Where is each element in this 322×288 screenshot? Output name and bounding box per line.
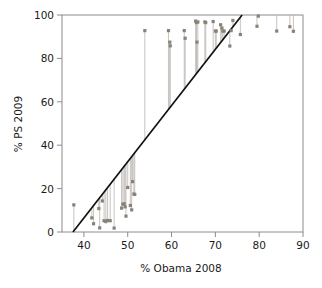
- data-point: [133, 193, 136, 196]
- data-point: [129, 204, 132, 207]
- data-point: [220, 26, 223, 29]
- data-point: [292, 30, 295, 33]
- data-point: [168, 41, 171, 44]
- fit-line-segment: [73, 15, 242, 232]
- data-point: [257, 14, 260, 17]
- data-point: [169, 44, 172, 47]
- data-point: [239, 33, 242, 36]
- y-tick-label-3: 60: [41, 96, 54, 108]
- x-tick-label-2: 60: [165, 239, 178, 251]
- data-point: [72, 203, 75, 206]
- data-point: [92, 222, 95, 225]
- regression-line: [73, 15, 242, 232]
- data-point: [204, 21, 207, 24]
- data-point: [230, 29, 233, 32]
- data-point: [195, 41, 198, 44]
- data-point: [97, 207, 100, 210]
- data-point: [109, 219, 112, 222]
- data-point: [113, 226, 116, 229]
- x-tick-label-5: 90: [296, 239, 309, 251]
- data-point: [101, 199, 104, 202]
- data-point: [124, 215, 127, 218]
- data-point: [183, 29, 186, 32]
- y-axis-title: % PS 2009: [12, 96, 24, 152]
- data-point: [223, 29, 226, 32]
- data-point: [219, 23, 222, 26]
- data-point: [231, 19, 234, 22]
- data-point: [167, 29, 170, 32]
- y-tick-label-4: 80: [41, 52, 54, 64]
- data-point: [130, 208, 133, 211]
- x-axis-title: % Obama 2008: [140, 262, 221, 274]
- plot-canvas: 405060708090 020406080100 % Obama 2008 %…: [0, 0, 322, 288]
- x-tick-label-4: 80: [252, 239, 265, 251]
- scatter-chart: 405060708090 020406080100 % Obama 2008 %…: [0, 0, 322, 288]
- data-point: [228, 44, 231, 47]
- data-point: [215, 29, 218, 32]
- x-tick-label-1: 50: [121, 239, 134, 251]
- data-point: [126, 186, 129, 189]
- y-tick-label-0: 0: [47, 226, 54, 238]
- data-point: [123, 202, 126, 205]
- data-point: [288, 25, 291, 28]
- x-tick-label-3: 70: [209, 239, 222, 251]
- y-tick-label-1: 20: [41, 183, 54, 195]
- data-point: [90, 216, 93, 219]
- data-point: [255, 25, 258, 28]
- data-point: [98, 226, 101, 229]
- data-point: [123, 205, 126, 208]
- y-axis-ticks: 020406080100: [34, 9, 62, 238]
- x-axis-ticks: 405060708090: [77, 232, 309, 251]
- data-point: [212, 20, 215, 23]
- residual-stems: [74, 15, 294, 231]
- y-tick-label-2: 40: [41, 139, 54, 151]
- data-point: [275, 29, 278, 32]
- data-point: [131, 180, 134, 183]
- data-point: [196, 20, 199, 23]
- x-tick-label-0: 40: [77, 239, 90, 251]
- data-point: [120, 207, 123, 210]
- y-tick-label-5: 100: [34, 9, 54, 21]
- data-point: [184, 37, 187, 40]
- data-point: [143, 29, 146, 32]
